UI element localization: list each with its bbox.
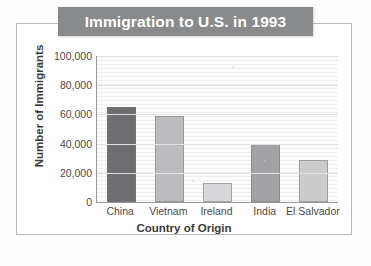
y-axis-ticks: 020,00040,00060,00080,000100,000: [22, 56, 92, 202]
bar: [155, 116, 184, 202]
scan-speckle: [322, 172, 324, 174]
bar-series: [97, 56, 338, 202]
gridline: [97, 85, 338, 86]
y-tick-label: 100,000: [22, 50, 92, 62]
plot-area: [96, 56, 338, 203]
scan-speckle: [192, 180, 194, 182]
scan-speckle: [264, 160, 266, 162]
x-tick-label: India: [253, 205, 276, 217]
x-tick-label: El Salvador: [286, 205, 340, 217]
gridline: [97, 173, 338, 174]
bar: [107, 107, 136, 202]
y-tick-label: 40,000: [22, 138, 92, 150]
x-tick-label: Vietnam: [149, 205, 187, 217]
gridline: [97, 144, 338, 145]
y-tick-label: 0: [22, 196, 92, 208]
x-tick-label: Ireland: [200, 205, 232, 217]
y-tick-label: 20,000: [22, 167, 92, 179]
scan-speckle: [232, 66, 234, 68]
chart-title: Immigration to U.S. in 1993: [85, 13, 287, 31]
x-axis-title: Country of Origin: [16, 222, 352, 234]
gridline: [97, 114, 338, 115]
y-tick-label: 60,000: [22, 108, 92, 120]
bar: [203, 183, 232, 202]
gridline: [97, 56, 338, 57]
y-tick-label: 80,000: [22, 79, 92, 91]
x-tick-label: China: [106, 205, 133, 217]
bar: [299, 160, 328, 202]
x-axis-ticks: ChinaVietnamIrelandIndiaEl Salvador: [96, 205, 337, 221]
chart-title-banner: Immigration to U.S. in 1993: [58, 7, 313, 36]
chart-figure: Immigration to U.S. in 1993 Number of Im…: [0, 0, 371, 266]
